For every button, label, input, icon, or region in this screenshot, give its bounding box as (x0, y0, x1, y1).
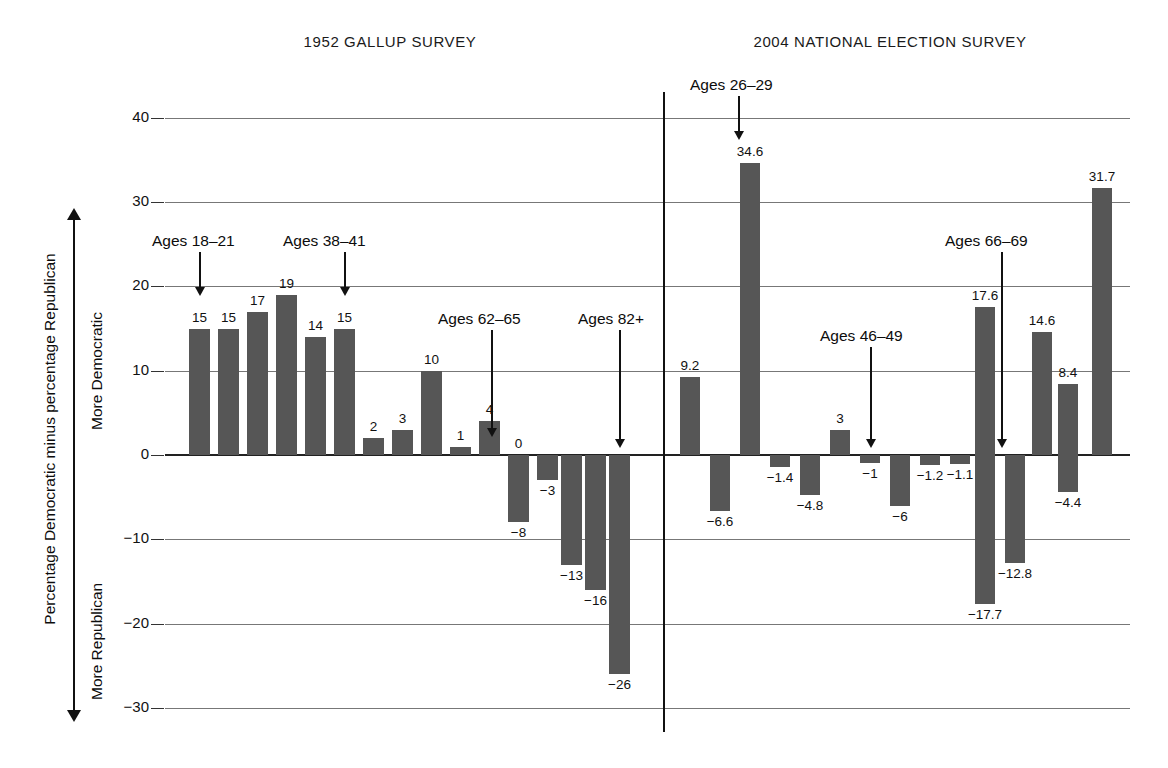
y-tick-mark (151, 624, 164, 625)
bar-value-label: −17.7 (955, 607, 1015, 622)
y-tick-mark (151, 371, 164, 372)
bar (450, 447, 471, 455)
bar-value-label: −6 (870, 509, 930, 524)
bar (392, 430, 413, 455)
y-tick-mark (151, 118, 164, 119)
bar (800, 455, 820, 495)
panel-divider (663, 92, 665, 732)
annotation-arrow-line (870, 347, 872, 440)
bar-value-label: 14.6 (1012, 313, 1072, 328)
direction-label-more-republican: More Republican (88, 583, 106, 700)
bar-value-label: 8.4 (1038, 365, 1098, 380)
annotation-label: Ages 82+ (578, 310, 644, 328)
annotation-arrow-head-icon (195, 287, 205, 296)
y-tick-label: 10 (75, 361, 149, 378)
bar (189, 329, 210, 455)
annotation-arrow-line (344, 252, 346, 288)
annotation-arrow-head-icon (734, 131, 744, 140)
bar (247, 312, 268, 455)
bar (305, 337, 326, 455)
y-tick-label: −20 (75, 614, 149, 631)
bar (334, 329, 355, 455)
bar (860, 455, 880, 463)
y-tick-label: 30 (75, 192, 149, 209)
bar-value-label: 10 (402, 352, 462, 367)
annotation-arrow-head-icon (615, 439, 625, 448)
figure-canvas: 1952 GALLUP SURVEY 2004 NATIONAL ELECTIO… (0, 0, 1168, 768)
annotation-label: Ages 26–29 (690, 76, 773, 94)
bar (537, 455, 558, 480)
annotation-arrow-line (491, 330, 493, 429)
bar-value-label: 3 (810, 411, 870, 426)
bar-value-label: −8 (489, 525, 549, 540)
bar (1058, 384, 1078, 455)
bar-value-label: −12.8 (985, 566, 1045, 581)
bar (975, 455, 995, 604)
y-tick-mark (151, 539, 164, 540)
y-tick-label: 0 (75, 445, 149, 462)
y-tick-mark (151, 202, 164, 203)
annotation-arrow-head-icon (997, 439, 1007, 448)
annotation-arrow-head-icon (487, 428, 497, 437)
bar-value-label: 0 (489, 436, 549, 451)
bar (1005, 455, 1025, 563)
annotation-label: Ages 66–69 (945, 232, 1028, 250)
bar (1032, 332, 1052, 455)
bar (975, 307, 995, 455)
bar (770, 455, 790, 467)
y-tick-mark (151, 286, 164, 287)
y-tick-label: 40 (75, 108, 149, 125)
bar-value-label: 17.6 (955, 288, 1015, 303)
gridline (165, 118, 1130, 119)
annotation-label: Ages 46–49 (820, 327, 903, 345)
bar (1058, 455, 1078, 492)
bar (609, 455, 630, 674)
y-tick-label: −10 (75, 529, 149, 546)
gridline (165, 202, 1130, 203)
bar (830, 430, 850, 455)
y-tick-mark (151, 708, 164, 709)
bar-value-label: 4 (460, 402, 520, 417)
bar (363, 438, 384, 455)
bar-value-label: 34.6 (720, 144, 780, 159)
gridline (165, 624, 1130, 625)
bar-value-label: 15 (315, 310, 375, 325)
bar-value-label: −26 (590, 677, 650, 692)
bar (710, 455, 730, 511)
bar-value-label: 31.7 (1072, 169, 1132, 184)
bar (950, 455, 970, 464)
gridline (165, 708, 1130, 709)
y-axis-label: Percentage Democratic minus percentage R… (41, 139, 59, 739)
annotation-arrow-head-icon (340, 287, 350, 296)
bar-value-label: 19 (257, 276, 317, 291)
y-tick-label: −30 (75, 698, 149, 715)
bar (585, 455, 606, 590)
annotation-arrow-line (199, 252, 201, 288)
annotation-arrow-head-icon (866, 439, 876, 448)
bar-value-label: −4.8 (780, 498, 840, 513)
bar (561, 455, 582, 565)
annotation-label: Ages 18–21 (152, 232, 235, 250)
bar (1092, 188, 1112, 455)
y-axis-arrow-up-icon (67, 208, 81, 220)
y-tick-mark (151, 455, 164, 456)
bar (680, 377, 700, 455)
panel-title-2004: 2004 NATIONAL ELECTION SURVEY (640, 33, 1140, 50)
panel-title-1952: 1952 GALLUP SURVEY (180, 33, 600, 50)
bar-value-label: −4.4 (1038, 495, 1098, 510)
bar (218, 329, 239, 455)
bar (920, 455, 940, 465)
bar-value-label: −6.6 (690, 514, 750, 529)
y-tick-label: 20 (75, 276, 149, 293)
annotation-arrow-line (738, 96, 740, 132)
annotation-label: Ages 62–65 (438, 310, 521, 328)
annotation-label: Ages 38–41 (283, 232, 366, 250)
annotation-arrow-line (619, 330, 621, 440)
bar (740, 163, 760, 455)
bar-value-label: 9.2 (660, 358, 720, 373)
annotation-arrow-line (1001, 252, 1003, 440)
